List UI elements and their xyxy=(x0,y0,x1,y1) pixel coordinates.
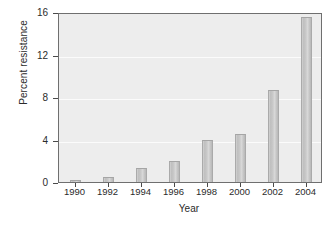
bar-1996 xyxy=(169,161,181,182)
y-tick-label-0: 0 xyxy=(8,177,48,188)
y-axis-label: Percent resistance xyxy=(18,0,29,133)
bar-2004 xyxy=(301,17,313,182)
y-tick-label-4: 4 xyxy=(8,135,48,146)
y-tick-mark xyxy=(53,141,58,142)
bar-1992 xyxy=(103,177,115,182)
y-tick-mark xyxy=(53,13,58,14)
y-tick-mark xyxy=(53,56,58,57)
bar-2002 xyxy=(268,90,280,182)
x-axis-label: Year xyxy=(56,203,322,214)
bar-1990 xyxy=(70,180,82,182)
x-tick-label-2004: 2004 xyxy=(286,186,326,197)
chart-figure: Percent resistance 0481216 1990199219941… xyxy=(0,0,330,227)
bar-series xyxy=(59,14,321,182)
bar-2000 xyxy=(235,134,247,182)
bar-1994 xyxy=(136,168,148,182)
plot-area xyxy=(58,13,322,183)
y-tick-label-8: 8 xyxy=(8,92,48,103)
bar-1998 xyxy=(202,140,214,183)
y-tick-mark xyxy=(53,183,58,184)
y-tick-mark xyxy=(53,98,58,99)
y-tick-label-12: 12 xyxy=(8,50,48,61)
y-tick-label-16: 16 xyxy=(8,7,48,18)
